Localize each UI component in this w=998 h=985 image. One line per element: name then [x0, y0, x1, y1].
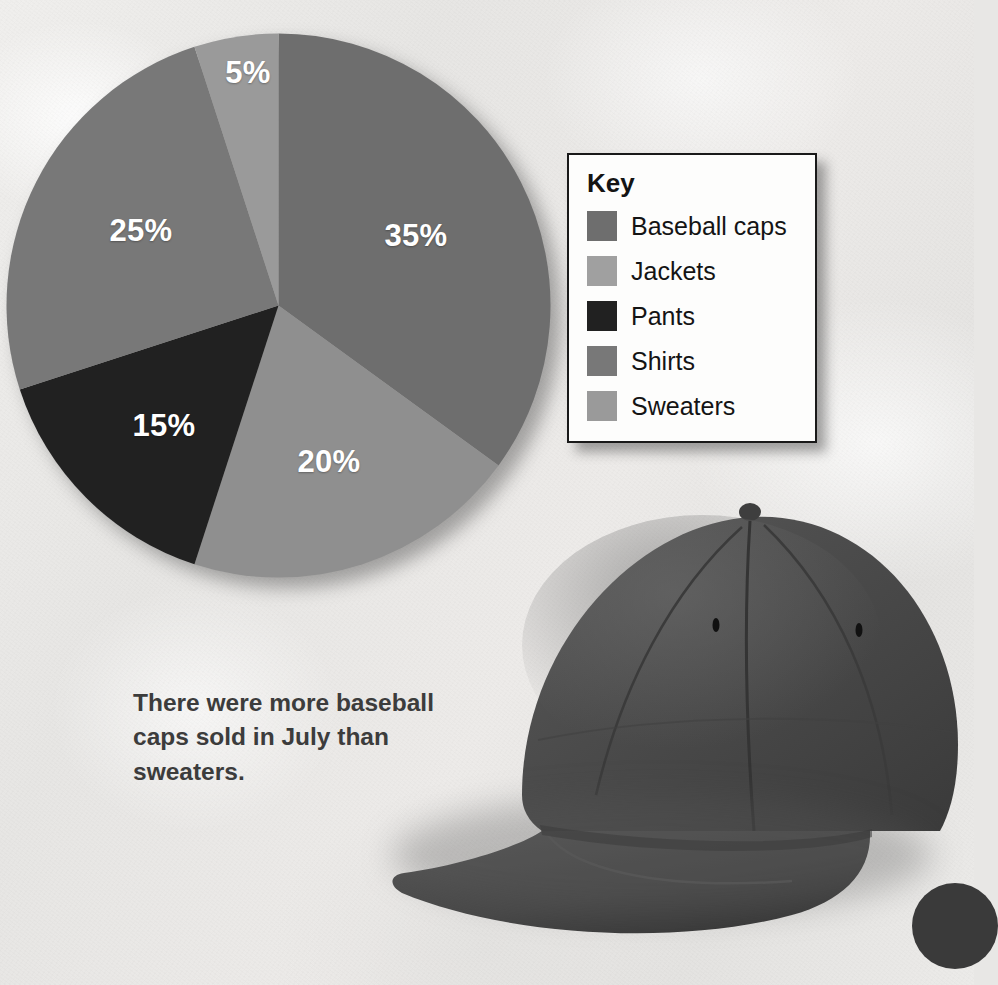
cap-drop-shadow — [392, 795, 932, 915]
legend-swatch-icon — [587, 346, 617, 376]
cap-highlight — [522, 515, 882, 775]
legend-item-baseball-caps[interactable]: Baseball caps — [587, 204, 815, 249]
legend-swatch-icon — [587, 256, 617, 286]
page-corner-marker — [912, 883, 998, 969]
legend-title: Key — [587, 169, 815, 198]
legend-swatch-icon — [587, 211, 617, 241]
legend-rows: Baseball capsJacketsPantsShirtsSweaters — [587, 204, 815, 429]
legend-item-label: Baseball caps — [631, 214, 787, 239]
baseball-cap-photo — [372, 495, 972, 945]
legend-item-shirts[interactable]: Shirts — [587, 339, 815, 384]
legend-item-label: Pants — [631, 304, 695, 329]
legend-swatch-icon — [587, 301, 617, 331]
legend-item-label: Jackets — [631, 259, 716, 284]
cap-eyelet-right — [856, 623, 863, 637]
legend-item-jackets[interactable]: Jackets — [587, 249, 815, 294]
legend-item-pants[interactable]: Pants — [587, 294, 815, 339]
legend-item-label: Sweaters — [631, 394, 735, 419]
legend-item-label: Shirts — [631, 349, 695, 374]
legend-key-box: Key Baseball capsJacketsPantsShirtsSweat… — [567, 153, 817, 443]
cap-button — [739, 503, 761, 521]
cap-eyelet-left — [713, 618, 720, 632]
legend-swatch-icon — [587, 391, 617, 421]
legend-item-sweaters[interactable]: Sweaters — [587, 384, 815, 429]
